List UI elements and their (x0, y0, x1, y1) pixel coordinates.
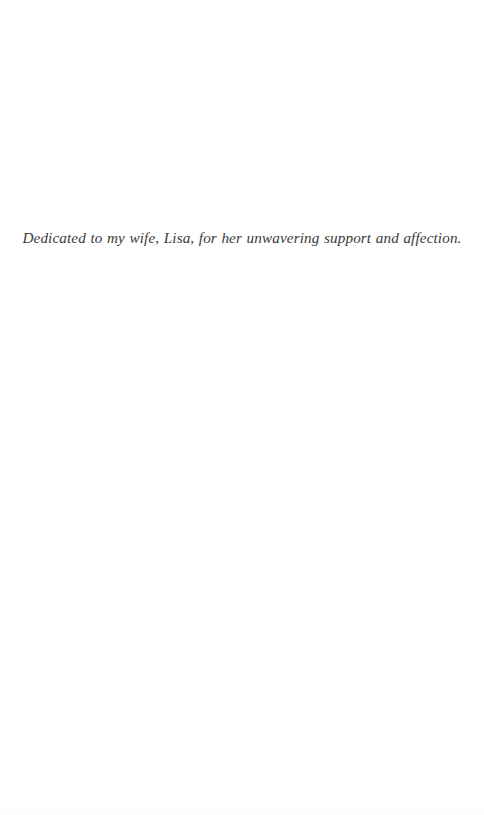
dedication-text: Dedicated to my wife, Lisa, for her unwa… (22, 228, 461, 248)
dedication-block: Dedicated to my wife, Lisa, for her unwa… (0, 228, 484, 248)
book-page: Dedicated to my wife, Lisa, for her unwa… (0, 0, 484, 815)
scan-edge-tint-top (0, 0, 484, 6)
scan-edge-tint-bottom (0, 807, 484, 815)
